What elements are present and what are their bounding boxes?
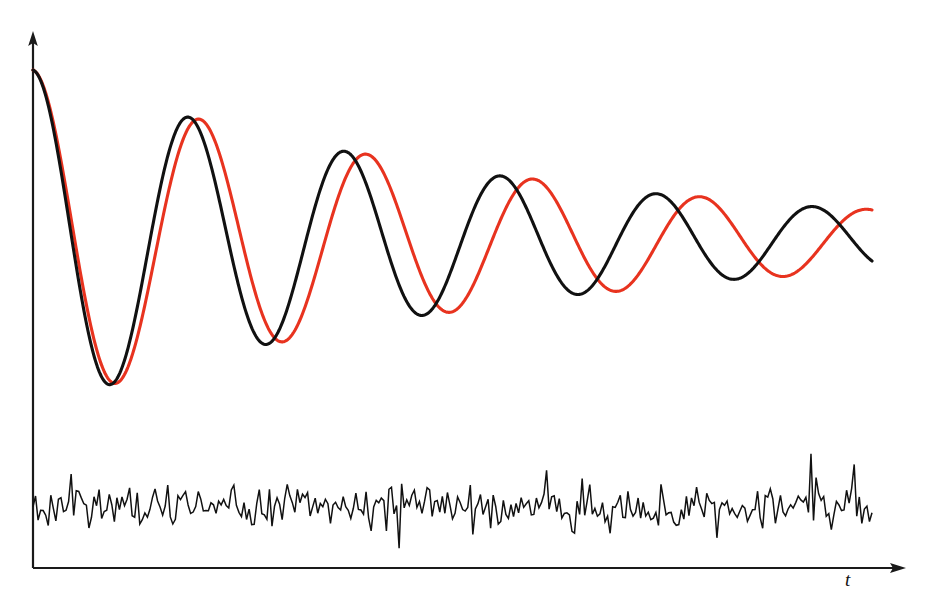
signal-red-trace (33, 70, 872, 383)
x-axis-label: t (845, 570, 850, 589)
figure-canvas: t (0, 0, 936, 613)
damped-oscillation-plot (0, 0, 936, 613)
signal-black-trace (33, 70, 872, 385)
axes-group (28, 31, 906, 573)
residual-noise-trace (33, 454, 872, 549)
series-group (33, 70, 872, 548)
